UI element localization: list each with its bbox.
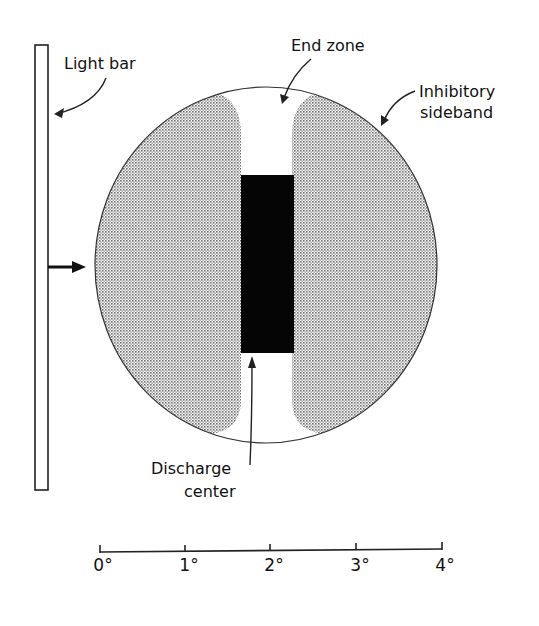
end-zone-label: End zone [291,36,365,55]
scale-tick-4: 4° [435,555,454,575]
movement-arrow-icon [48,261,86,273]
discharge-center [241,175,294,353]
scale-tick-1: 1° [179,555,198,575]
scale-tick-2: 2° [264,555,283,575]
inhibitory-sideband-label-line2: sideband [420,103,493,122]
degree-scale [100,542,442,553]
light-bar [35,45,48,490]
light-bar-label: Light bar [64,54,136,73]
inhibitory-sideband-label-line1: Inhibitory [419,82,495,101]
scale-tick-3: 3° [350,555,369,575]
inhibitory-leader-icon [384,91,415,121]
scale-tick-0: 0° [93,555,112,575]
discharge-center-label-line2: center [184,482,235,501]
discharge-center-label-line1: Discharge [151,459,231,478]
discharge-leader-icon [250,362,252,465]
inhibitory-sideband-left [60,60,241,470]
